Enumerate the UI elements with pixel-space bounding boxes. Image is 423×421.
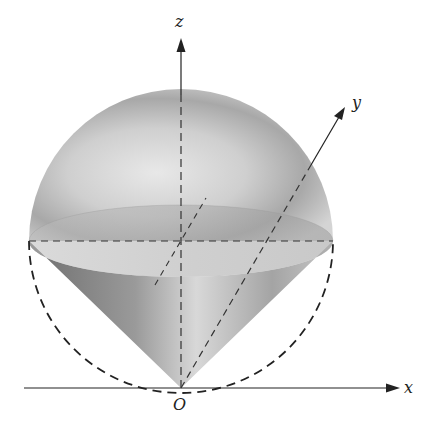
y-axis-label: y [351, 93, 362, 112]
origin-label: O [173, 395, 186, 414]
x-axis [24, 384, 400, 393]
y-axis-arrowhead-icon [334, 107, 345, 120]
z-axis-arrowhead-icon [177, 38, 186, 52]
x-axis-arrowhead-icon [386, 384, 400, 393]
z-axis-label: z [174, 12, 184, 31]
figure-canvas: z y x O [0, 0, 423, 421]
x-axis-label: x [404, 378, 413, 397]
